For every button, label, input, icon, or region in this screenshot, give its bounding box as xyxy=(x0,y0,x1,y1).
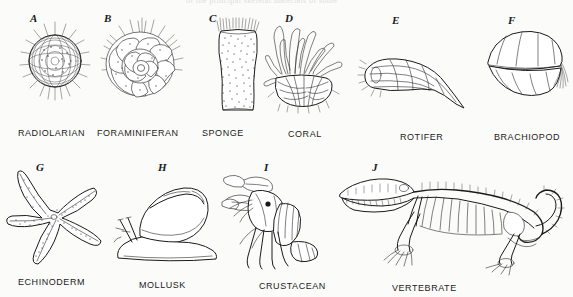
echinoderm-starfish-icon xyxy=(6,166,110,272)
radiolarian-sphere-icon xyxy=(18,20,92,112)
figure-caption-echinoderm: ECHINODERM xyxy=(18,277,85,287)
figure-caption-foraminiferan: FORAMINIFERAN xyxy=(97,128,179,138)
figure-caption-radiolarian: RADIOLARIAN xyxy=(18,128,85,138)
figure-caption-mollusk: MOLLUSK xyxy=(139,280,186,290)
figure-letter-h: H xyxy=(158,161,167,173)
brachiopod-shell-icon xyxy=(482,26,570,104)
figure-caption-vertebrate: VERTEBRATE xyxy=(392,283,457,293)
coral-polyp-icon xyxy=(262,18,346,114)
mollusk-snail-icon xyxy=(112,180,228,266)
rotifer-icon xyxy=(360,48,474,110)
figure-caption-rotifer: ROTIFER xyxy=(400,132,443,142)
sponge-vase-icon xyxy=(214,18,262,114)
figure-plate: of the principal skeletal materials of s… xyxy=(0,0,573,297)
foraminiferan-spiral-icon xyxy=(96,18,188,114)
figure-letter-f: F xyxy=(508,14,515,26)
figure-caption-brachiopod: BRACHIOPOD xyxy=(494,132,560,142)
figure-caption-sponge: SPONGE xyxy=(202,128,244,138)
cropped-header-text: of the principal skeletal materials of s… xyxy=(186,0,476,5)
crustacean-crayfish-icon xyxy=(222,172,332,270)
vertebrate-skeleton-icon xyxy=(330,168,566,268)
figure-caption-crustacean: CRUSTACEAN xyxy=(259,281,326,291)
figure-letter-e: E xyxy=(392,14,399,26)
figure-caption-coral: CORAL xyxy=(288,129,322,139)
